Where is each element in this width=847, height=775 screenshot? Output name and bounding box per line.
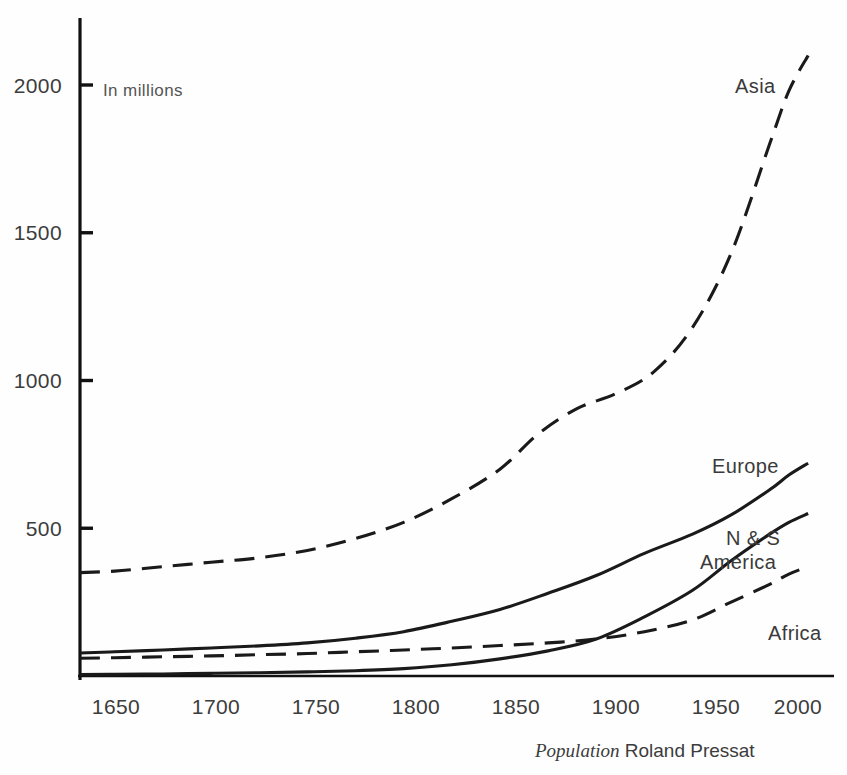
credit-author: Roland Pressat [625, 740, 755, 761]
series-africa [80, 567, 808, 659]
x-tick-label-1650: 1650 [66, 695, 166, 719]
x-tick-label-1850: 1850 [466, 695, 566, 719]
x-tick-label-1750: 1750 [266, 695, 366, 719]
series-europe [80, 463, 808, 653]
y-tick-label-2000: 2000 [0, 74, 62, 98]
population-growth-chart: 2000 1500 1000 500 1650 1700 1750 1800 1… [0, 0, 847, 775]
x-tick-label-1900: 1900 [566, 695, 666, 719]
y-tick-label-500: 500 [0, 517, 62, 541]
axis-layer [78, 18, 834, 680]
series-label-america-line2: America [700, 551, 776, 573]
unit-note: In millions [103, 81, 183, 101]
x-tick-label-1700: 1700 [166, 695, 266, 719]
series-label-america-line1: N & S [726, 527, 780, 549]
figure-credit: Population Roland Pressat [535, 740, 755, 762]
series-layer [80, 55, 808, 674]
series-asia [80, 55, 808, 572]
series-label-africa: Africa [768, 622, 822, 644]
y-tick-label-1500: 1500 [0, 221, 62, 245]
chart-plot-area [0, 0, 847, 775]
series-label-asia: Asia [735, 75, 776, 97]
credit-book-title: Population [535, 740, 619, 761]
y-tick-label-1000: 1000 [0, 369, 62, 393]
series-label-europe: Europe [712, 455, 779, 477]
x-tick-label-2000: 2000 [748, 695, 847, 719]
x-tick-label-1800: 1800 [366, 695, 466, 719]
